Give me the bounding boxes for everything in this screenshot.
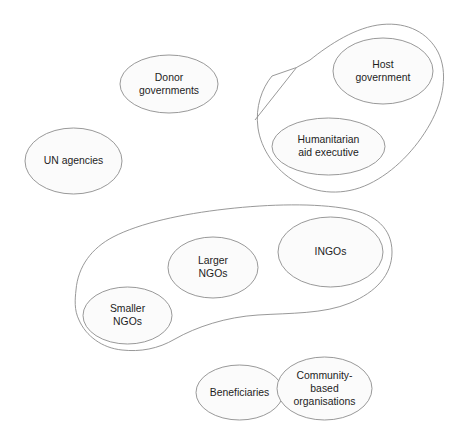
node-larger-ngos[interactable]: LargerNGOs bbox=[168, 237, 258, 298]
node-ingos[interactable]: INGOs bbox=[278, 217, 383, 287]
node-host-government[interactable]: Hostgovernment bbox=[333, 38, 433, 104]
node-un-agencies[interactable]: UN agencies bbox=[25, 128, 122, 194]
node-beneficiaries[interactable]: Beneficiaries bbox=[196, 365, 283, 420]
un-agencies-label: UN agencies bbox=[44, 155, 104, 166]
group-government-executive-notch bbox=[255, 68, 297, 121]
ingos-label: INGOs bbox=[315, 246, 347, 257]
node-humanitarian-aid-executive[interactable]: Humanitarianaid executive bbox=[272, 118, 385, 175]
node-community-based-organisations[interactable]: Community-basedorganisations bbox=[277, 357, 372, 420]
node-donor-governments[interactable]: Donorgovernments bbox=[120, 55, 218, 113]
node-smaller-ngos[interactable]: SmallerNGOs bbox=[83, 287, 172, 344]
beneficiaries-label: Beneficiaries bbox=[210, 386, 270, 397]
diagram-canvas: UN agencies Donorgovernments Hostgovernm… bbox=[0, 0, 460, 441]
diagram-svg: UN agencies Donorgovernments Hostgovernm… bbox=[0, 0, 460, 441]
